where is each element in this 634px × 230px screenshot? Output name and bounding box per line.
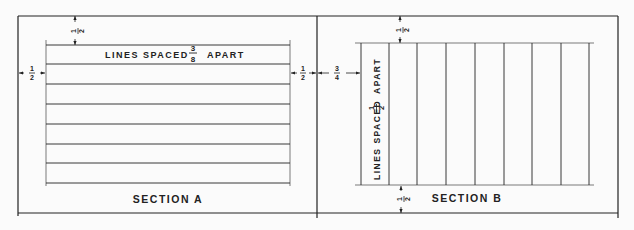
svg-text:3: 3 [335,65,339,72]
drawing-canvas: LINES SPACED 3 8 APART 1 2 1 2 [0,0,634,230]
svg-text:8: 8 [191,55,196,64]
outer-frame [18,16,618,218]
section-b-lines [355,43,594,185]
section-a-lines [46,40,290,186]
svg-text:1: 1 [30,65,34,72]
svg-text:1: 1 [395,28,402,32]
svg-text:4: 4 [335,74,339,81]
section-a: LINES SPACED 3 8 APART 1 2 1 2 [19,16,316,205]
section-b-dim-bottom: 1 2 [396,186,411,213]
svg-text:2: 2 [30,74,34,81]
svg-text:2: 2 [403,28,410,32]
section-b-title: SECTION B [432,192,503,204]
section-a-dim-top: 1 2 [70,16,85,45]
svg-text:2: 2 [78,29,85,33]
section-b-note-prefix: LINES SPACED [372,100,382,180]
section-a-title: SECTION A [133,193,203,205]
svg-text:1: 1 [396,197,403,201]
svg-text:1: 1 [301,65,305,72]
section-b: LINES SPACED 1 2 APART 3 4 1 2 [318,16,594,213]
section-b-note-suffix: APART [372,58,382,94]
section-b-note: LINES SPACED 1 2 APART [367,58,386,180]
section-b-dim-left: 3 4 [318,65,360,81]
section-a-note-prefix: LINES SPACED [105,50,189,60]
section-a-dim-left: 1 2 [19,65,45,81]
svg-text:2: 2 [377,106,386,110]
svg-text:1: 1 [367,106,376,110]
svg-text:2: 2 [404,197,411,201]
section-a-note-suffix: APART [207,50,245,60]
section-a-note-fraction: 3 8 [189,44,197,64]
section-a-dim-right: 1 2 [291,65,316,81]
svg-text:3: 3 [191,44,196,53]
section-b-dim-top: 1 2 [395,16,410,43]
svg-text:2: 2 [301,74,305,81]
svg-text:1: 1 [70,29,77,33]
